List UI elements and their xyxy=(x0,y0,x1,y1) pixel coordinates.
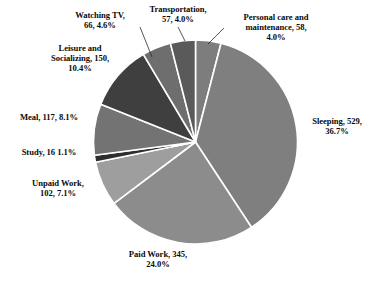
slice-label-unpaid-work: Unpaid Work, 102, 7.1% xyxy=(12,178,104,198)
slice-label-transportation: Transportation, 57, 4.0% xyxy=(136,4,220,24)
slice-label-leisure-and-socializing: Leisure and Socializing, 150, 10.4% xyxy=(32,43,128,74)
slice-label-paid-work: Paid Work, 345, 24.0% xyxy=(110,249,206,269)
pie-chart: Watching TV, 66, 4.6% Transportation, 57… xyxy=(0,0,378,287)
transportation-leader xyxy=(178,27,185,41)
slice-label-study: Study, 16 1.1% xyxy=(4,147,94,157)
slice-label-meal: Meal, 117, 8.1% xyxy=(2,112,96,122)
slice-label-sleeping: Sleeping, 529, 36.7% xyxy=(298,116,376,136)
slice-label-personal-care-and-maintenance: Personal care and maintenance, 58, 4.0% xyxy=(224,12,328,43)
slice-label-watching-tv: Watching TV, 66, 4.6% xyxy=(60,10,140,30)
